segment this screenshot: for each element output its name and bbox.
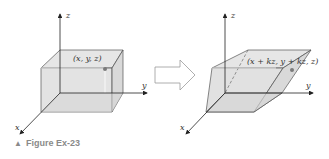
x-axis: [186, 93, 225, 134]
point-label: (x, y, z): [73, 54, 102, 63]
x-axis-label: x: [15, 123, 20, 132]
z-axis-label: z: [230, 11, 236, 20]
figure-caption: ▲ Figure Ex-23: [14, 138, 80, 148]
y-axis-label: y: [141, 81, 147, 90]
x-axis: [20, 93, 60, 134]
triangle-marker-icon: ▲: [14, 139, 22, 148]
figure-canvas: z y x (x, y, z) z y x (x + kz, y + kz, z…: [0, 0, 329, 159]
left-panel: z y x (x, y, z): [15, 11, 147, 134]
point-marker: [103, 67, 107, 71]
x-axis-label: x: [180, 123, 185, 132]
point-marker: [290, 68, 294, 72]
caption-text: Figure Ex-23: [26, 138, 80, 148]
right-arrow-icon: [155, 60, 195, 90]
right-panel: z y x (x + kz, y + kz, z): [180, 11, 318, 134]
z-axis-label: z: [65, 11, 71, 20]
y-axis-label: y: [305, 81, 311, 90]
point-label: (x + kz, y + kz, z): [247, 57, 318, 66]
